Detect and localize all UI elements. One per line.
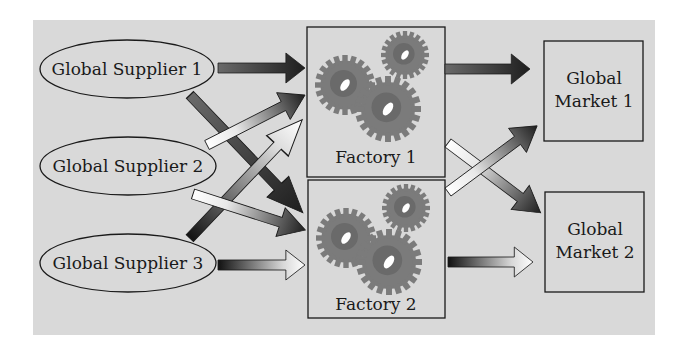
market-1-label-line1: Global <box>566 68 622 88</box>
supply-chain-diagram: Factory 1 Factory 2 Global Market 1 Glob… <box>0 0 686 354</box>
supplier-3-label: Global Supplier 3 <box>53 253 204 273</box>
market-2-label-line2: Market 2 <box>555 242 634 262</box>
global-market-1: Global Market 1 <box>544 41 643 141</box>
factory-1-label: Factory 1 <box>335 147 416 167</box>
global-market-2: Global Market 2 <box>545 192 644 292</box>
factory-1: Factory 1 <box>307 27 445 177</box>
global-supplier-1: Global Supplier 1 <box>40 40 214 98</box>
market-1-label-line2: Market 1 <box>554 91 633 111</box>
global-supplier-3: Global Supplier 3 <box>40 234 216 292</box>
market-2-label-line1: Global <box>567 219 623 239</box>
global-supplier-2: Global Supplier 2 <box>40 137 216 195</box>
factory-2-label: Factory 2 <box>335 294 416 314</box>
supplier-2-label: Global Supplier 2 <box>53 156 204 176</box>
factory-2: Factory 2 <box>308 180 445 318</box>
supplier-1-label: Global Supplier 1 <box>52 59 203 79</box>
